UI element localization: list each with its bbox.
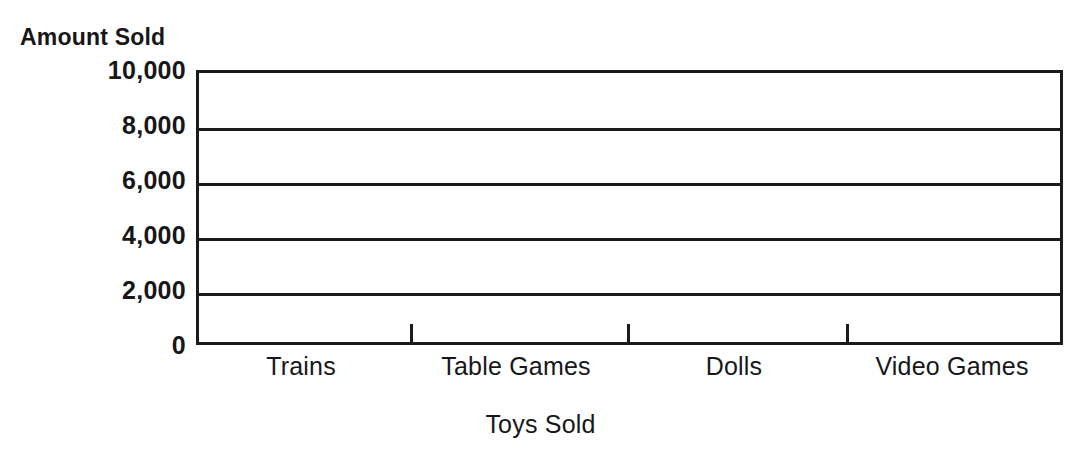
y-axis-tick-label: 2,000 bbox=[6, 276, 186, 305]
y-axis-tick-label: 6,000 bbox=[6, 166, 186, 195]
x-axis-category-label-table-games: Table Games bbox=[441, 352, 591, 381]
plot-area bbox=[196, 70, 1063, 345]
x-axis-tick-mark bbox=[410, 324, 413, 342]
x-axis-category-label-dolls: Dolls bbox=[706, 352, 763, 381]
y-axis-tick-label: 8,000 bbox=[6, 111, 186, 140]
x-axis-category-label-video-games: Video Games bbox=[875, 352, 1028, 381]
y-axis-tick-label: 4,000 bbox=[6, 221, 186, 250]
y-axis-tick-label-group: 10,000 8,000 6,000 4,000 2,000 0 bbox=[0, 0, 186, 465]
bar-chart-figure: Amount Sold 10,000 8,000 6,000 4,000 2,0… bbox=[0, 0, 1081, 465]
gridline-8000 bbox=[199, 128, 1060, 131]
y-axis-tick-label: 10,000 bbox=[6, 56, 186, 85]
y-axis-tick-label: 0 bbox=[6, 331, 186, 360]
x-axis-category-label-group: Trains Table Games Dolls Video Games bbox=[196, 352, 1063, 386]
gridline-6000 bbox=[199, 183, 1060, 186]
x-axis-tick-mark bbox=[846, 324, 849, 342]
gridline-2000 bbox=[199, 293, 1060, 296]
x-axis-tick-mark bbox=[627, 324, 630, 342]
gridline-4000 bbox=[199, 238, 1060, 241]
x-axis-category-label-trains: Trains bbox=[266, 352, 336, 381]
x-axis-title: Toys Sold bbox=[0, 410, 1081, 439]
